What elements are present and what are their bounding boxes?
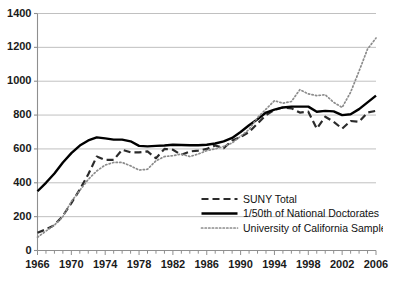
legend-label-3: University of California Sample: [243, 222, 383, 234]
y-tick-label-0: 0: [0, 244, 32, 256]
gridlines-group: [38, 14, 377, 217]
y-tick-label-1200: 1200: [0, 40, 32, 52]
x-tick-label-2006: 2006: [356, 258, 393, 270]
legend-label-1: SUNY Total: [243, 193, 297, 205]
legend-label-2: 1/50th of National Doctorates: [243, 207, 379, 219]
y-tick-label-1000: 1000: [0, 74, 32, 86]
y-tick-label-600: 600: [0, 142, 32, 154]
y-tick-label-200: 200: [0, 210, 32, 222]
y-tick-label-800: 800: [0, 108, 32, 120]
y-tick-label-1400: 1400: [0, 7, 32, 19]
series-line-1-50th-of-national-doctorates: [38, 96, 377, 192]
y-tick-label-400: 400: [0, 176, 32, 188]
x-axis-minor-ticks: [38, 251, 377, 256]
chart-legend: SUNY Total1/50th of National DoctoratesU…: [202, 193, 384, 234]
